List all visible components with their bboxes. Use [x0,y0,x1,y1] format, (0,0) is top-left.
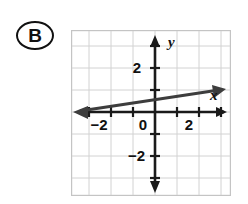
graph-svg: y x −2 0 2 2 −2 [71,30,231,196]
x-axis-label: x [209,87,218,103]
choice-letter: B [16,21,54,50]
y-axis [150,35,160,193]
choice-badge: B [16,21,54,50]
coordinate-plane: y x −2 0 2 2 −2 [71,30,231,196]
ytick-label-neg2: −2 [128,147,145,164]
xtick-label-neg2: −2 [90,116,107,133]
y-axis-label: y [166,34,175,50]
figure-canvas: B [0,0,248,204]
y-axis-arrow-down [150,181,160,193]
ytick-label-pos2: 2 [133,59,141,76]
line-arrow-left [73,106,88,119]
xtick-label-pos2: 2 [185,116,193,133]
xtick-label-zero: 0 [139,116,147,133]
